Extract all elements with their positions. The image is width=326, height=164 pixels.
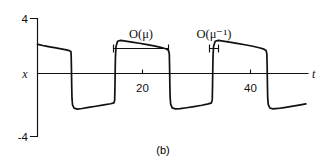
fast-phase-label: O(μ⁻¹) bbox=[197, 27, 232, 41]
figure-caption-wrap: (b) bbox=[0, 140, 326, 158]
y-tick-label-top: 4 bbox=[22, 13, 29, 25]
figure-caption: (b) bbox=[156, 144, 169, 156]
y-axis-label: x bbox=[21, 67, 28, 81]
slow-phase-label: O(μ) bbox=[129, 27, 153, 41]
oscillation-curve bbox=[38, 40, 306, 109]
x-axis-label: t bbox=[312, 67, 316, 81]
y-axis bbox=[31, 19, 38, 137]
x-tick-label-40: 40 bbox=[244, 82, 257, 94]
x-tick-label-20: 20 bbox=[136, 82, 149, 94]
slow-phase-bracket bbox=[114, 45, 169, 53]
figure-container: 20 40 4 -4 x t O(μ) O(μ⁻¹) (b) bbox=[0, 0, 326, 164]
